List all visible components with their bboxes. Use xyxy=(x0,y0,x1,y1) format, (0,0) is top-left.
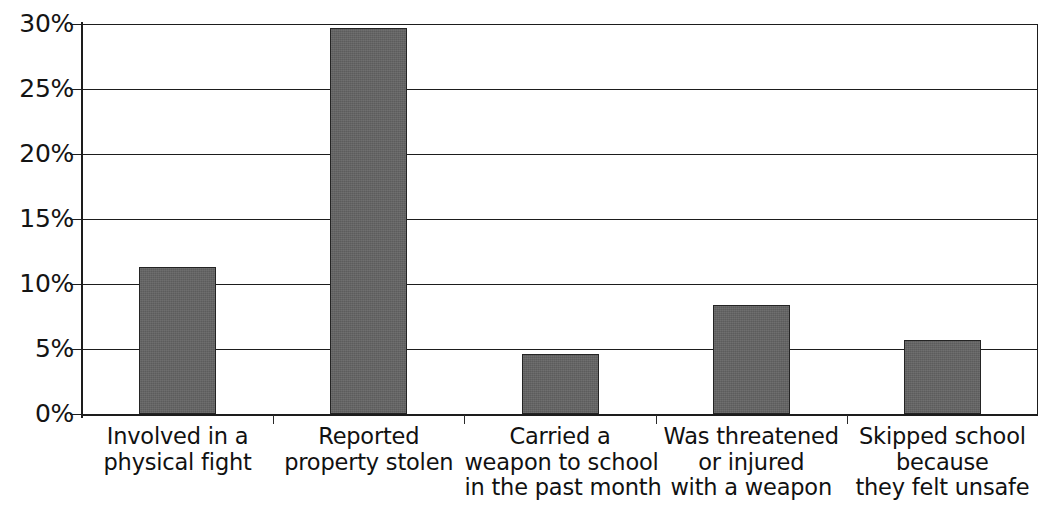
plot-area xyxy=(82,24,1038,414)
plot-right-border xyxy=(1037,24,1038,416)
bar-chart: 0%5%10%15%20%25%30% Involved in aphysica… xyxy=(0,0,1046,505)
x-axis-category-label-line: Involved in a xyxy=(82,424,273,450)
x-axis-category-label-line: or injured xyxy=(656,450,847,476)
x-axis-tick-mark xyxy=(847,415,848,424)
y-axis-labels: 0%5%10%15%20%25%30% xyxy=(0,0,74,430)
bar xyxy=(904,340,981,414)
x-axis-category-label-line: because xyxy=(847,450,1038,476)
y-axis-tick-label: 15% xyxy=(2,206,74,231)
x-axis-tick-mark xyxy=(273,415,274,424)
bar xyxy=(522,354,599,414)
gridline xyxy=(82,89,1038,90)
y-axis-tick-label: 5% xyxy=(2,336,74,361)
x-axis-category-label-line: with a weapon xyxy=(656,475,847,501)
x-axis-labels: Involved in aphysical fightReportedprope… xyxy=(0,424,1046,505)
gridline xyxy=(82,219,1038,220)
x-axis-tick-mark xyxy=(464,415,465,424)
gridline xyxy=(82,24,1038,25)
x-axis-category-label-line: Was threatened xyxy=(656,424,847,450)
y-axis-tick-label: 25% xyxy=(2,76,74,101)
x-axis-category-label: Reportedproperty stolen xyxy=(273,424,464,475)
y-axis-tick-label: 0% xyxy=(2,401,74,426)
x-axis-category-label-line: they felt unsafe xyxy=(847,475,1038,501)
y-axis-tick-label: 10% xyxy=(2,271,74,296)
y-axis-tick-label: 20% xyxy=(2,141,74,166)
gridline xyxy=(82,349,1038,350)
x-axis-category-label-line: Reported xyxy=(273,424,464,450)
y-axis-tick-label: 30% xyxy=(2,11,74,36)
x-axis-category-label-line: property stolen xyxy=(273,450,464,476)
x-axis-category-label-line: in the past month xyxy=(464,475,655,501)
bar xyxy=(139,267,216,414)
x-axis-tick-mark xyxy=(656,415,657,424)
x-axis-category-label: Involved in aphysical fight xyxy=(82,424,273,475)
x-axis-category-label: Was threatenedor injuredwith a weapon xyxy=(656,424,847,501)
x-axis-category-label-line: Carried a xyxy=(464,424,655,450)
gridline xyxy=(82,284,1038,285)
bar xyxy=(330,28,407,414)
x-axis-baseline xyxy=(82,414,1038,416)
bar xyxy=(713,305,790,414)
gridline xyxy=(82,154,1038,155)
x-axis-category-label-line: Skipped school xyxy=(847,424,1038,450)
x-axis-category-label-line: weapon to school xyxy=(464,450,655,476)
x-axis-category-label: Skipped schoolbecausethey felt unsafe xyxy=(847,424,1038,501)
x-axis-category-label-line: physical fight xyxy=(82,450,273,476)
x-axis-category-label: Carried aweapon to schoolin the past mon… xyxy=(464,424,655,501)
